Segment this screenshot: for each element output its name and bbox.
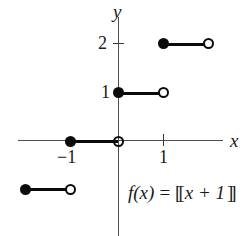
x-tick-1 [163, 134, 164, 146]
closed-endpoint-x-1 [158, 38, 169, 49]
x-axis-label: x [230, 131, 238, 150]
step-function-figure: y x 2 1 1 −1 f(x)=[[x + 1]] [0, 0, 251, 236]
x-tick-label-1: 1 [159, 148, 168, 166]
y-tick-label-2: 2 [98, 34, 107, 52]
closed-endpoint-x-minus-1 [65, 136, 76, 147]
equation-open-bracket: [[ [175, 182, 185, 203]
closed-endpoint-x-0 [113, 87, 124, 98]
y-axis-label: y [113, 2, 121, 21]
closed-endpoint-x-minus-2 [20, 184, 31, 195]
equation-equals: = [154, 182, 175, 203]
open-endpoint-x-1 [158, 87, 169, 98]
step-segment-y-0 [71, 140, 118, 143]
open-endpoint-x-2 [203, 38, 214, 49]
equation-function-name: f(x) [128, 182, 154, 203]
open-endpoint-origin [113, 136, 124, 147]
y-tick-label-1: 1 [101, 83, 110, 101]
x-tick-label-minus-1: −1 [57, 148, 76, 166]
open-endpoint-x-minus-1-lower [65, 184, 76, 195]
function-equation: f(x)=[[x + 1]] [128, 183, 237, 202]
y-tick-2 [113, 43, 124, 44]
y-axis-line [118, 17, 119, 236]
equation-body: x + 1 [185, 182, 225, 203]
equation-close-bracket: ]] [225, 182, 237, 203]
